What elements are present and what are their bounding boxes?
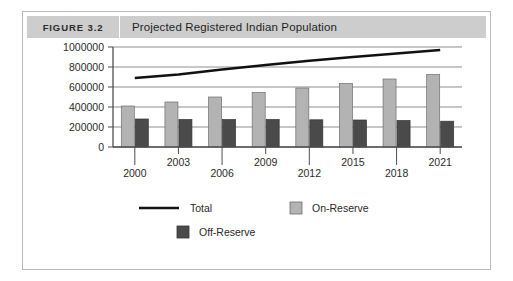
figure-header: FIGURE 3.2 Projected Registered Indian P…: [27, 16, 486, 38]
x-axis-tick-label: 2018: [385, 167, 409, 179]
x-axis-tick-label: 2009: [254, 156, 278, 168]
bar-off-reserve: [353, 120, 366, 147]
figure-title: Projected Registered Indian Population: [120, 21, 337, 33]
bar-off-reserve: [135, 119, 148, 147]
legend-label-off-reserve: Off-Reserve: [199, 226, 256, 238]
x-axis-tick-label: 2003: [167, 156, 191, 168]
legend-marker-on-reserve: [290, 202, 302, 214]
bar-on-reserve: [121, 106, 134, 147]
bar-on-reserve: [252, 93, 265, 148]
x-axis-tick-label: 2012: [298, 167, 322, 179]
y-axis-tick-label: 200000: [69, 121, 104, 133]
y-axis-tick-label: 400000: [69, 101, 104, 113]
total-trend-line: [135, 50, 440, 78]
population-bar-chart: 0200000400000600000800000100000020002003…: [27, 40, 488, 267]
bar-on-reserve: [296, 88, 309, 147]
y-axis-tick-label: 800000: [69, 61, 104, 73]
figure-number-label: FIGURE 3.2: [27, 16, 119, 38]
x-axis-tick-label: 2015: [341, 156, 365, 168]
x-axis-tick-label: 2021: [429, 156, 453, 168]
legend-label-total: Total: [190, 202, 212, 214]
bar-off-reserve: [310, 120, 323, 147]
x-axis-tick-label: 2006: [210, 167, 234, 179]
bar-off-reserve: [397, 121, 410, 148]
bar-off-reserve: [441, 121, 454, 147]
y-axis-tick-label: 600000: [69, 81, 104, 93]
bar-off-reserve: [223, 120, 236, 148]
legend-marker-off-reserve: [177, 226, 189, 238]
bar-on-reserve: [339, 84, 352, 148]
bar-on-reserve: [165, 102, 178, 147]
bar-off-reserve: [266, 120, 279, 148]
bar-off-reserve: [179, 120, 192, 148]
bar-on-reserve: [209, 97, 222, 147]
chart-plot-area: 0200000400000600000800000100000020002003…: [27, 40, 486, 265]
figure-card: FIGURE 3.2 Projected Registered Indian P…: [22, 11, 491, 270]
bar-on-reserve: [427, 75, 440, 148]
legend-label-on-reserve: On-Reserve: [312, 202, 369, 214]
bar-on-reserve: [383, 79, 396, 147]
x-axis-tick-label: 2000: [123, 167, 147, 179]
y-axis-tick-label: 0: [98, 141, 104, 153]
y-axis-tick-label: 1000000: [63, 41, 104, 53]
